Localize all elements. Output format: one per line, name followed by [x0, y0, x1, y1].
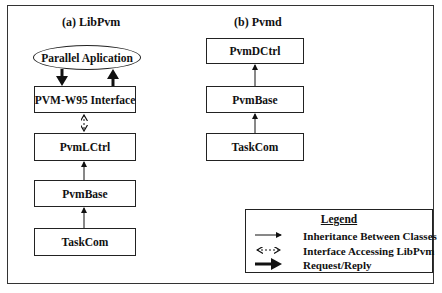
legend-item-inheritance: Inheritance Between Classes: [303, 230, 437, 242]
reply-arrow: [107, 69, 119, 86]
legend-title: Legend: [246, 213, 432, 225]
legend-box: Legend Inheritance Between Classes Inter…: [245, 209, 433, 273]
legend-item-request-reply: Request/Reply: [303, 259, 371, 271]
request-arrow: [56, 69, 68, 86]
legend-item-interface: Interface Accessing LibPvm: [303, 245, 434, 257]
